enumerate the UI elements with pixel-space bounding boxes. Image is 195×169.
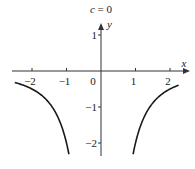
chart-title: c = 0 bbox=[90, 3, 113, 15]
x-tick-label: 0 bbox=[90, 75, 96, 87]
x-tick-label: −1 bbox=[59, 75, 71, 87]
axes bbox=[12, 23, 190, 156]
curve-left-branch bbox=[15, 83, 69, 155]
chart: c = 0yx−2−10121−1−2 bbox=[0, 0, 195, 169]
x-tick-label: −2 bbox=[24, 75, 36, 87]
y-tick-label: −2 bbox=[85, 137, 97, 149]
x-tick-label: 2 bbox=[165, 75, 171, 87]
y-axis-label: y bbox=[106, 18, 112, 30]
curve-right-branch bbox=[133, 85, 179, 154]
y-tick-label: −1 bbox=[85, 101, 97, 113]
x-axis-label: x bbox=[181, 57, 187, 69]
y-axis-arrow-icon bbox=[98, 23, 104, 30]
x-tick-label: 1 bbox=[131, 75, 137, 87]
labels: c = 0yx−2−10121−1−2 bbox=[24, 3, 186, 149]
y-tick-label: 1 bbox=[92, 29, 98, 41]
